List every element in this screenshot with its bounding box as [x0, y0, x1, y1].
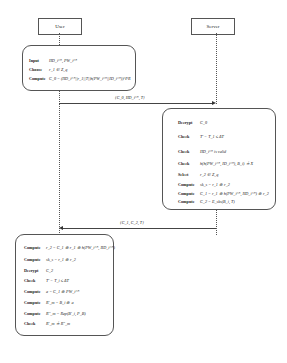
actor-user: User: [38, 18, 82, 35]
actor-server-label: Server: [206, 24, 219, 29]
step-row: Check T' − T_i ≤ ΔT: [24, 278, 69, 283]
step-row: Check R'_m ≟ R''_m: [24, 321, 70, 326]
user-step-2-box: Compute r_2 = C_1 ⊕ r_1 ⊕ h(PW_i^*, IID_…: [15, 234, 114, 336]
step-row: Compute C_2 = E_sks(B_i, T): [178, 199, 235, 204]
user-lifeline: [59, 33, 60, 45]
user-lifeline: [59, 89, 60, 104]
step-row: Decrypt C_2: [24, 268, 53, 273]
arrow-left-icon: [59, 226, 63, 230]
step-row: Compute sk_s = r_1 ⊕ r_2: [178, 182, 230, 187]
actor-user-label: User: [55, 24, 64, 29]
step-row: Check h(h(PW_i^*, ID_i^*), B_i) ≟ X: [178, 161, 253, 166]
message-2-arrow: [63, 228, 216, 229]
step-row: Compute C_1 = r_1 ⊕ h(PW_i^*, IID_i^*) ⊕…: [178, 191, 269, 196]
message-1-arrow: [59, 103, 212, 104]
message-1-label: {C_0, IID_i^*, T}: [115, 95, 145, 100]
step-row: Check T' − T_1 ≤ ΔT: [178, 134, 224, 139]
step-row: Decrypt C_0: [178, 120, 207, 125]
step-row: Compute sk_s = r_1 ⊕ r_2: [24, 257, 76, 262]
step-row: Input IID_i^*, PW_i^*: [29, 58, 77, 63]
user-step-1-box: Input IID_i^*, PW_i^* Choose r_1 ∈ Z_q C…: [22, 45, 136, 91]
step-row: Select r_2 ∈ Z_q: [178, 172, 218, 177]
server-lifeline: [216, 33, 217, 104]
actor-server: Server: [191, 18, 235, 35]
step-row: Compute R'_m = B_i ⊕ a: [24, 300, 74, 305]
step-row: Compute a = C_1 ⊕ PW_i^*: [24, 289, 79, 294]
user-lifeline: [59, 104, 60, 235]
step-row: Compute R''_m = Rep(B'_i, P_B): [24, 311, 86, 316]
step-row: Compute C_0 = (IID_i^*||r_1||T||h(PW_i^*…: [29, 76, 130, 81]
step-row: Choose r_1 ∈ Z_q: [29, 67, 67, 72]
step-row: Check IID_i^* is valid: [178, 149, 226, 154]
arrow-right-icon: [212, 101, 216, 105]
message-2-label: {C_1, C_2, T}: [120, 220, 144, 225]
server-step-box: Decrypt C_0 Check T' − T_1 ≤ ΔT Check II…: [162, 108, 276, 210]
step-row: Compute r_2 = C_1 ⊕ r_1 ⊕ h(PW_i^*, IID_…: [24, 245, 115, 250]
